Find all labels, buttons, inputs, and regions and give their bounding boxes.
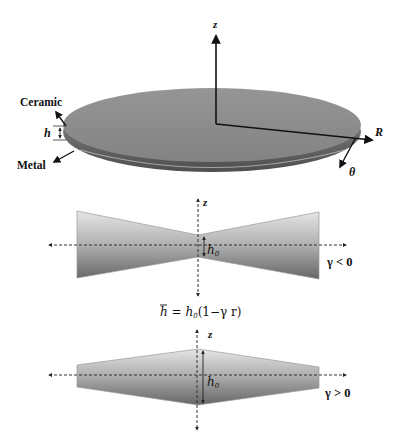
ceramic-label: Ceramic — [20, 96, 62, 108]
disk-top-face — [63, 88, 361, 162]
metal-label: Metal — [17, 159, 46, 171]
profile-positive-condition: γ > 0 — [324, 386, 350, 400]
disk-z-label: z — [212, 18, 218, 30]
thickness-formula: h = h0(1−γ r) — [160, 305, 241, 320]
fgm-disk-diagram: z R θ Ceramic Metal h z h0 γ < 0 h = h0(… — [0, 0, 401, 446]
profile-negative-z-label: z — [202, 196, 208, 208]
profile-positive-shape — [77, 349, 319, 405]
disk-r-label: R — [374, 125, 383, 139]
thickness-label: h — [44, 126, 51, 140]
profile-negative-condition: γ < 0 — [326, 255, 352, 269]
metal-arrow — [54, 151, 74, 162]
ceramic-arrow — [56, 112, 66, 126]
profile-gamma-positive: z h0 γ > 0 — [49, 328, 350, 430]
profile-gamma-negative: z h0 γ < 0 — [49, 196, 352, 296]
disk-3d — [63, 88, 361, 172]
profile-positive-z-label: z — [207, 328, 213, 340]
disk-theta-label: θ — [349, 165, 356, 179]
formula-text: h = h0(1−γ r) — [160, 305, 241, 320]
